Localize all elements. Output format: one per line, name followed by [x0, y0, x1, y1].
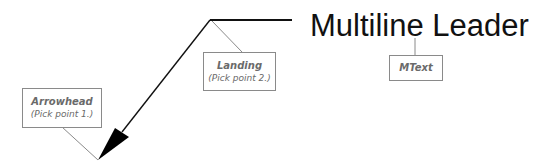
landing-callout-subtitle: (Pick point 2.)	[204, 72, 275, 84]
mtext-content: Multiline Leader	[310, 10, 529, 41]
landing-callout: Landing (Pick point 2.)	[203, 52, 276, 91]
leader-line	[122, 20, 210, 132]
mtext-callout: MText	[389, 55, 443, 81]
landing-callout-connector	[212, 21, 242, 52]
arrowhead-icon	[98, 128, 129, 160]
mtext-callout-title: MText	[390, 61, 442, 74]
arrowhead-callout-subtitle: (Pick point 1.)	[23, 108, 101, 120]
arrowhead-callout: Arrowhead (Pick point 1.)	[22, 88, 102, 128]
arrowhead-callout-connector	[62, 127, 98, 160]
arrowhead-callout-title: Arrowhead	[23, 95, 101, 108]
landing-callout-title: Landing	[204, 59, 275, 72]
